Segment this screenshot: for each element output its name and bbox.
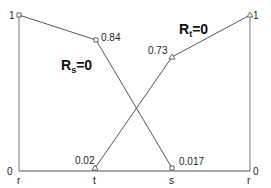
x-label-t: t (93, 175, 96, 186)
value-label-084: 0.84 (101, 32, 121, 43)
value-label-0017: 0.017 (179, 156, 204, 167)
left-bottom-label: 0 (7, 166, 13, 177)
series-label-rs: Rs=0 (61, 57, 92, 75)
triangle-marker-s (169, 54, 175, 59)
x-label-r-right: r (247, 175, 251, 186)
series-label-rt: Rt=0 (179, 21, 208, 39)
x-label-r-left: r (17, 175, 21, 186)
x-label-s: s (169, 175, 174, 186)
right-bottom-label: 0 (253, 166, 259, 177)
left-top-label: 1 (9, 10, 15, 21)
value-label-002: 0.02 (75, 155, 95, 166)
value-label-073: 0.73 (148, 45, 168, 56)
square-marker-s (170, 166, 174, 170)
square-marker-t (94, 38, 98, 42)
square-marker-r (17, 13, 21, 17)
right-top-label: 1 (253, 10, 259, 21)
diagram-canvas: 1 0 1 0 r t s r 0.84 0.017 0.02 0.73 Rs=… (0, 0, 271, 188)
